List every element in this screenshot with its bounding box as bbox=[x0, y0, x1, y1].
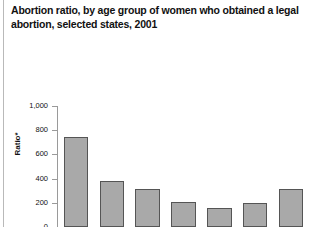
chart-title-line-1: Abortion ratio, by age group of women wh… bbox=[11, 3, 311, 17]
bar-20–24[interactable] bbox=[135, 189, 159, 227]
y-axis-tick-label: 0 bbox=[2, 223, 48, 227]
y-axis-tick-label: 1,000 bbox=[2, 102, 48, 110]
bar-slot bbox=[273, 106, 309, 227]
y-axis-tick-label: 200 bbox=[2, 199, 48, 207]
y-axis-tick-label: 800 bbox=[2, 126, 48, 134]
plot-area: Ratio* 02004006008001,000 <1515–1920–242… bbox=[0, 48, 323, 208]
chart-title: Abortion ratio, by age group of women wh… bbox=[11, 3, 311, 31]
bar-35–39[interactable] bbox=[243, 203, 267, 227]
bar-<15[interactable] bbox=[64, 137, 88, 227]
y-axis-tick-label: 600 bbox=[2, 150, 48, 158]
bar-slot bbox=[94, 106, 130, 227]
bar-slot bbox=[58, 106, 94, 227]
bar-slot bbox=[237, 106, 273, 227]
abortion-ratio-bar-chart: Abortion ratio, by age group of women wh… bbox=[0, 0, 323, 227]
y-axis-tick-label: 400 bbox=[2, 175, 48, 183]
bar-series bbox=[58, 106, 309, 227]
bar-30–34[interactable] bbox=[207, 208, 231, 227]
bar-15–19[interactable] bbox=[100, 181, 124, 227]
chart-title-line-2: abortion, selected states, 2001 bbox=[11, 17, 311, 31]
bar-slot bbox=[201, 106, 237, 227]
bar-slot bbox=[130, 106, 166, 227]
bar-slot bbox=[166, 106, 202, 227]
bar-≥40[interactable] bbox=[279, 189, 303, 227]
bar-25–29[interactable] bbox=[171, 202, 195, 227]
